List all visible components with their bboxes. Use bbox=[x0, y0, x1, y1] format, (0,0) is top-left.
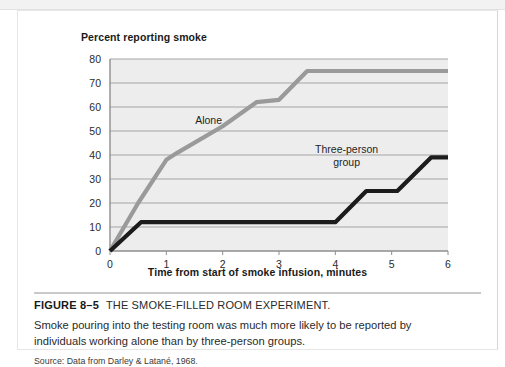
caption-heading: FIGURE 8–5THE SMOKE-FILLED ROOM EXPERIME… bbox=[34, 298, 486, 313]
chart-figure: Percent reporting smoke 0102030405060708… bbox=[18, 11, 497, 291]
y-tick-label: 70 bbox=[89, 77, 101, 89]
y-tick-label: 0 bbox=[95, 245, 101, 257]
x-axis-title: Time from start of smoke infusion, minut… bbox=[18, 266, 497, 278]
y-tick-label: 60 bbox=[89, 101, 101, 113]
plot-area: 010203040506070800123456AloneThree-perso… bbox=[18, 11, 497, 291]
y-tick-label: 50 bbox=[89, 125, 101, 137]
y-tick-label: 40 bbox=[89, 149, 101, 161]
y-tick-label: 10 bbox=[89, 221, 101, 233]
caption-body-text: Smoke pouring into the testing room was … bbox=[34, 318, 452, 349]
series-label: group bbox=[333, 156, 360, 168]
figure-number: FIGURE 8–5 bbox=[34, 299, 99, 311]
page-top-edge bbox=[0, 0, 505, 10]
figure-card: Percent reporting smoke 0102030405060708… bbox=[17, 10, 498, 350]
series-label: Alone bbox=[195, 114, 222, 126]
series-label: Three-person bbox=[315, 143, 378, 155]
y-tick-label: 30 bbox=[89, 173, 101, 185]
caption-divider bbox=[34, 292, 481, 294]
figure-title: THE SMOKE-FILLED ROOM EXPERIMENT. bbox=[106, 299, 330, 311]
caption-source-text: Source: Data from Darley & Latané, 1968. bbox=[34, 355, 486, 367]
figure-caption: FIGURE 8–5THE SMOKE-FILLED ROOM EXPERIME… bbox=[34, 298, 486, 367]
line-chart-svg: 010203040506070800123456AloneThree-perso… bbox=[18, 11, 497, 291]
y-tick-label: 80 bbox=[89, 53, 101, 65]
y-tick-label: 20 bbox=[89, 197, 101, 209]
